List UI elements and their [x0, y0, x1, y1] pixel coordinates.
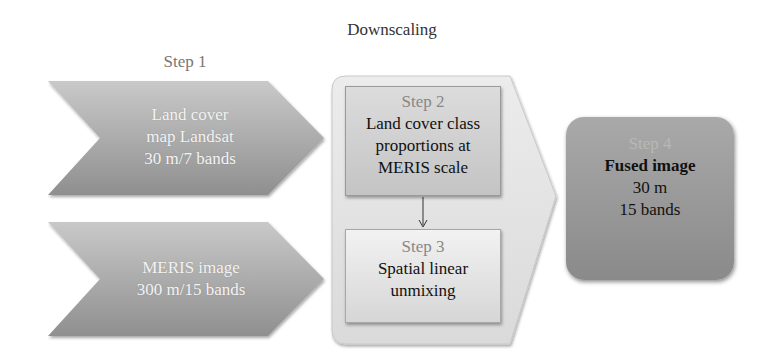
- step3-label: Step 3: [346, 236, 500, 258]
- step3-line-2: unmixing: [346, 280, 500, 302]
- step4-label: Step 4: [566, 133, 734, 155]
- step2-label: Step 2: [346, 91, 500, 113]
- meris-input-text: MERIS image 300 m/15 bands: [106, 257, 276, 301]
- step4-line-1: 30 m: [566, 177, 734, 199]
- step3-line-1: Spatial linear: [346, 258, 500, 280]
- landsat-line-3: 30 m/7 bands: [110, 148, 270, 170]
- landsat-line-2: map Landsat: [110, 126, 270, 148]
- step4-line-2: 15 bands: [566, 199, 734, 221]
- meris-line-2: 300 m/15 bands: [106, 279, 276, 301]
- step3-box: Step 3 Spatial linear unmixing: [345, 229, 501, 323]
- step4-title: Fused image: [566, 155, 734, 177]
- landsat-line-1: Land cover: [110, 104, 270, 126]
- meris-line-1: MERIS image: [106, 257, 276, 279]
- step4-box: Step 4 Fused image 30 m 15 bands: [566, 117, 734, 280]
- step2-line-2: proportions at: [346, 135, 500, 157]
- landsat-input-text: Land cover map Landsat 30 m/7 bands: [110, 104, 270, 170]
- step2-line-3: MERIS scale: [346, 157, 500, 179]
- step2-box: Step 2 Land cover class proportions at M…: [345, 86, 501, 196]
- step2-line-1: Land cover class: [346, 113, 500, 135]
